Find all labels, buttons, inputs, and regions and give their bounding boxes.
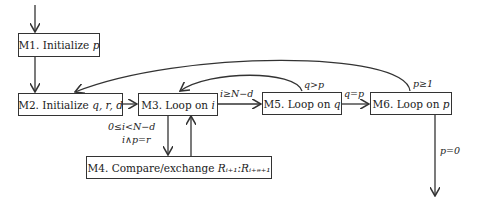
node-m3-label: M3. Loop on i	[141, 99, 215, 111]
node-m2-initialize-qrd: M2. Initialize q, r, d	[18, 93, 123, 116]
edge-label-m5-m3: q>p	[304, 79, 324, 90]
node-m4-label: M4. Compare/exchange Rᵢ₊₁:Rᵢ₊ₔ₊₁	[88, 162, 271, 174]
node-m4-compare-exchange: M4. Compare/exchange Rᵢ₊₁:Rᵢ₊ₔ₊₁	[86, 156, 272, 179]
node-m6-label: M6. Loop on p	[373, 98, 450, 110]
node-m1-initialize-p: M1. Initialize p	[18, 33, 100, 57]
edge-label-m6-exit: p=0	[440, 145, 460, 156]
node-m2-label: M2. Initialize q, r, d	[18, 99, 123, 111]
node-m1-label: M1. Initialize p	[19, 39, 100, 51]
edge-label-m5-m6: q=p	[344, 88, 364, 99]
edge-label-m6-m2: p≥1	[413, 78, 433, 89]
edge-label-m3-m5: i≥N−d	[220, 88, 253, 99]
edge-label-m3-m4-cond2: i∧p=r	[122, 134, 151, 145]
edge-label-m3-m4-cond1: 0≤i<N−d	[108, 121, 155, 132]
node-m5-label: M5. Loop on q	[264, 98, 341, 110]
node-m3-loop-i: M3. Loop on i	[138, 93, 218, 116]
node-m5-loop-q: M5. Loop on q	[262, 92, 342, 115]
node-m6-loop-p: M6. Loop on p	[370, 92, 452, 115]
